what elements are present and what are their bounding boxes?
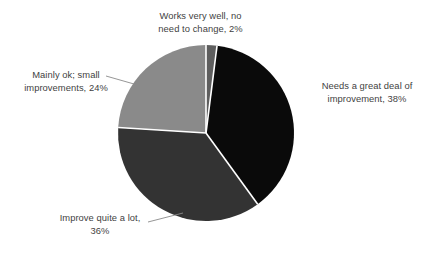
pie-slice-mainly-ok[interactable] — [118, 45, 206, 133]
pie-label-mainly-ok: Mainly ok; small improvements, 24% — [8, 69, 124, 94]
pie-label-works-very-well: Works very well, no need to change, 2% — [127, 10, 274, 35]
pie-label-improve-quite-a-lot: Improve quite a lot, 36% — [33, 212, 167, 237]
pie-label-needs-great-deal: Needs a great deal of improvement, 38% — [305, 80, 429, 105]
pie-chart-figure: Works very well, no need to change, 2% N… — [0, 0, 431, 258]
